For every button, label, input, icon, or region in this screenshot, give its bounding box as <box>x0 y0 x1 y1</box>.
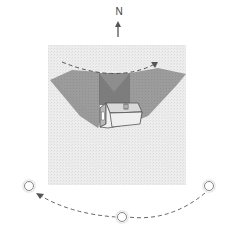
sun-south-icon <box>114 209 130 225</box>
north-arrow-icon <box>115 21 121 37</box>
sun-east-icon <box>21 178 37 194</box>
sun-shadow-diagram <box>0 0 232 240</box>
arrowhead-icon <box>36 193 44 199</box>
house <box>100 103 142 128</box>
sun-west-icon <box>201 178 217 194</box>
